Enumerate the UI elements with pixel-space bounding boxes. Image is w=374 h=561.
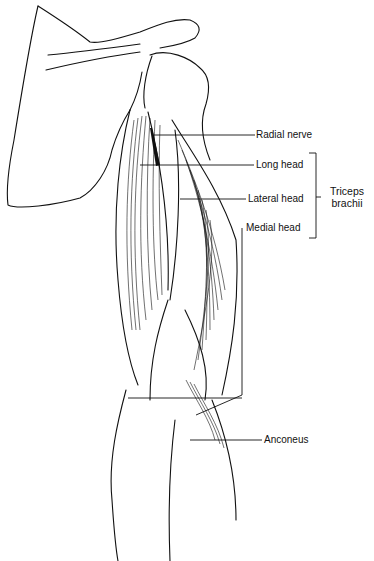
arm-anatomy-illustration bbox=[0, 0, 374, 561]
scapula-outline bbox=[7, 6, 130, 207]
label-radial-nerve: Radial nerve bbox=[256, 129, 312, 141]
group-line-1: Triceps bbox=[322, 185, 372, 197]
lateral-head-outline bbox=[172, 120, 237, 395]
forearm-mid bbox=[169, 420, 175, 561]
lateral-head-inner bbox=[170, 130, 179, 300]
group-line-2: brachii bbox=[322, 197, 372, 209]
radial-nerve-shape bbox=[150, 128, 160, 166]
label-lateral-head: Lateral head bbox=[248, 193, 304, 205]
humerus-neck bbox=[130, 56, 152, 110]
humeral-head bbox=[150, 53, 210, 160]
scapula-top bbox=[38, 6, 199, 48]
long-head-inner bbox=[148, 112, 168, 290]
label-medial-head: Medial head bbox=[246, 222, 300, 234]
label-anconeus: Anconeus bbox=[264, 434, 308, 446]
spine-of-scapula bbox=[46, 44, 140, 70]
forearm-right bbox=[212, 400, 236, 520]
forearm-left bbox=[111, 390, 126, 561]
label-triceps-brachii: Triceps brachii bbox=[322, 185, 372, 209]
label-long-head: Long head bbox=[256, 159, 303, 171]
